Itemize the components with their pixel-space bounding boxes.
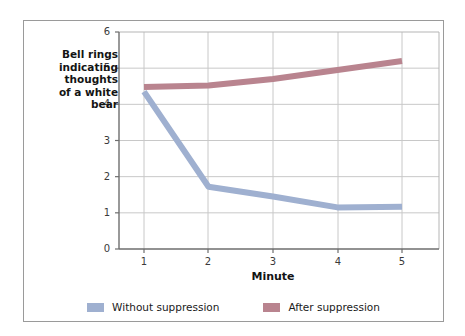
x-tick-label-1: 1 [132,257,156,267]
x-tick-label-4: 4 [326,257,350,267]
x-tick-label-3: 3 [261,257,285,267]
chart-figure: 0 1 2 3 4 5 6 1 2 3 4 5 Bell rings indic… [0,0,465,336]
legend-entry-without-suppression: Without suppression [87,301,219,313]
y-tick-label-1: 1 [92,208,110,218]
y-tick-label-0: 0 [92,244,110,254]
y-axis-title: Bell rings indicating thoughts of a whit… [30,48,118,111]
y-tick-label-6: 6 [92,27,110,37]
y-tick-label-3: 3 [92,136,110,146]
chart-legend: Without suppression After suppression [23,296,444,318]
legend-swatch-icon-without-suppression [87,303,104,312]
legend-label-after-suppression: After suppression [288,301,380,313]
x-tick-label-5: 5 [390,257,414,267]
y-tick-label-2: 2 [92,172,110,182]
legend-entry-after-suppression: After suppression [263,301,380,313]
legend-label-without-suppression: Without suppression [112,301,219,313]
x-tick-label-2: 2 [196,257,220,267]
legend-swatch-icon-after-suppression [263,303,280,312]
x-axis-title: Minute [144,270,402,283]
